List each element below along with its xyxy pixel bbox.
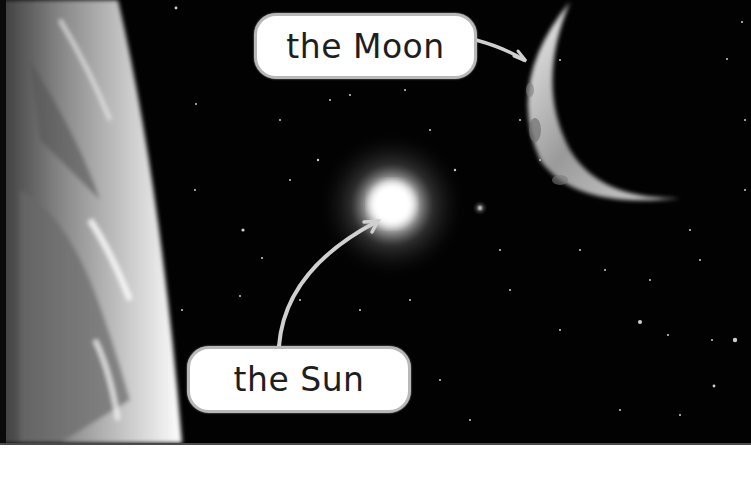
earth [0,0,182,443]
distant-star [472,200,488,216]
page-edge [0,0,6,443]
moon [526,2,680,200]
sun-label: the Sun [187,346,411,413]
sun [317,130,467,280]
moon-label: the Moon [254,13,477,79]
moon-arrow [476,40,526,61]
blank-bottom-strip [0,445,751,478]
sun-label-text: the Sun [234,360,365,399]
moon-label-text: the Moon [286,27,444,66]
